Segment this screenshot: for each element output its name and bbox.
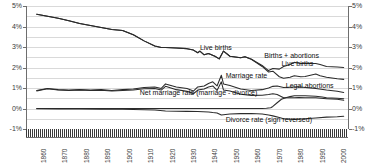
chart-annotation-label: Legal abortions — [286, 82, 334, 90]
chart-annotation-label: Marriage rate — [226, 72, 268, 80]
chart-container: 5%4%3%2%1%0%-1% 5%4%3%2%1%0%-1% 18601870… — [0, 0, 377, 165]
chart-annotation-label: Live births — [200, 44, 232, 52]
chart-annotation-label: Live births — [281, 60, 313, 68]
chart-annotation-label: Births + abortions — [264, 52, 319, 60]
chart-annotation-label: Net marriage rate (marriage - divorce) — [140, 89, 257, 97]
chart-annotation-label: Divorce rate (sign reversed) — [226, 116, 312, 124]
series-line — [37, 14, 344, 79]
